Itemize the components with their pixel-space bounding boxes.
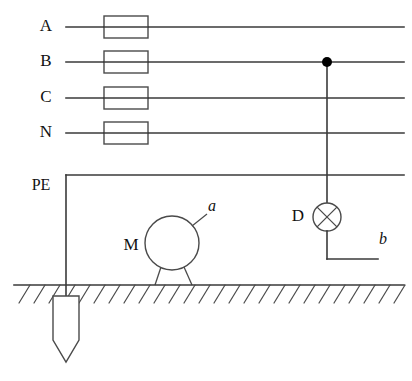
conductor-label-c: C: [40, 87, 51, 106]
ground-hatch-stroke: [349, 285, 360, 303]
ground-hatch-stroke: [289, 285, 300, 303]
lamp-terminal-label-b: b: [379, 230, 387, 247]
motor-terminal-leader-line: [192, 214, 207, 226]
ground-hatch-stroke: [169, 285, 180, 303]
ground-hatch-stroke: [34, 285, 45, 303]
conductor-labels: A B C N PE: [32, 16, 53, 193]
ground-hatch-stroke: [154, 285, 165, 303]
earth-electrode: [53, 296, 79, 362]
motor-terminal-label-a: a: [208, 197, 216, 214]
ground-hatch-stroke: [319, 285, 330, 303]
circuit-diagram: A B C N PE D b M a: [0, 0, 412, 381]
motor-leg-right: [184, 267, 192, 285]
ground-hatch-stroke: [244, 285, 255, 303]
motor: M a: [123, 197, 216, 285]
motor-circle: [145, 216, 199, 270]
ground-hatch-stroke: [394, 285, 405, 303]
lamp-branch: D b: [292, 57, 387, 259]
ground-hatch-stroke: [184, 285, 195, 303]
conductor-label-b: B: [40, 51, 51, 70]
ground-hatch-stroke: [304, 285, 315, 303]
lamp-label-d: D: [292, 206, 304, 225]
ground-hatch-stroke: [79, 285, 90, 303]
ground-hatch-stroke: [214, 285, 225, 303]
ground-hatch-stroke: [379, 285, 390, 303]
conductor-label-pe: PE: [32, 176, 51, 193]
conductor-label-a: A: [40, 16, 53, 35]
ground-hatch-stroke: [139, 285, 150, 303]
ground-hatch-stroke: [19, 285, 30, 303]
ground-hatch-stroke: [124, 285, 135, 303]
ground-hatch-stroke: [199, 285, 210, 303]
junction-dot: [322, 57, 332, 67]
ground-hatch-stroke: [259, 285, 270, 303]
ground-hatch-stroke: [274, 285, 285, 303]
earth-electrode-body: [53, 296, 79, 362]
circuit-svg: A B C N PE D b M a: [0, 0, 412, 381]
ground-hatch-stroke: [364, 285, 375, 303]
ground-hatch-stroke: [229, 285, 240, 303]
fuses: [104, 16, 148, 144]
motor-label-m: M: [123, 235, 138, 254]
ground-hatch-stroke: [94, 285, 105, 303]
motor-leg-left: [155, 267, 161, 285]
ground-hatch-stroke: [109, 285, 120, 303]
conductor-label-n: N: [40, 122, 52, 141]
ground-hatch-stroke: [334, 285, 345, 303]
